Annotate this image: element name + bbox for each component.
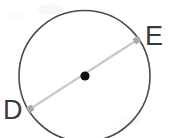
geometry-figure: D E [0,0,177,138]
vertex-label-e: E [145,23,163,50]
center-point-dot [80,71,89,80]
vertex-label-d: D [3,97,23,124]
